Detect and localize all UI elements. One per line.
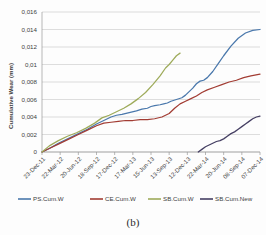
y-tick-label: 0,01 — [25, 61, 38, 68]
x-axis-tick-labels: 23-Dec-1122-Mar-1220-Jun-1218-Sep-1217-D… — [22, 155, 264, 180]
y-tick-label: 0,006 — [22, 96, 38, 103]
line-chart: 00,0020,0040,0060,0080,010,0120,0140,016… — [0, 0, 266, 190]
y-tick-label: 0,014 — [22, 26, 38, 33]
legend-label-ce-cum-w: CE.Cum.W — [105, 195, 136, 202]
legend-label-ps-cum-w: PS.Cum.W — [33, 195, 64, 202]
legend-label-sb-cum-w: SB.Cum.W — [163, 195, 194, 202]
y-tick-label: 0,002 — [22, 131, 38, 138]
y-tick-label: 0,012 — [22, 43, 38, 50]
y-tick-label: 0,008 — [22, 78, 38, 85]
figure-caption: (b) — [127, 216, 140, 229]
figure-container: 00,0020,0040,0060,0080,010,0120,0140,016… — [0, 0, 266, 235]
series-line-sb-cum-w — [42, 53, 180, 152]
chart-plot-area: 00,0020,0040,0060,0080,010,0120,0140,016… — [0, 0, 266, 190]
y-tick-label: 0 — [34, 148, 38, 155]
y-axis-tick-labels: 00,0020,0040,0060,0080,010,0120,0140,016 — [22, 8, 38, 155]
chart-legend: PS.Cum.WCE.Cum.WSB.Cum.WSB.Cum.New — [0, 190, 266, 212]
data-series-group — [42, 30, 260, 153]
y-tick-label: 0,004 — [22, 113, 38, 120]
y-tick-label: 0,016 — [22, 8, 38, 15]
y-axis-title: Cumulative Wear (mm) — [7, 63, 14, 129]
legend-label-sb-cum-new: SB.Cum.New — [215, 195, 253, 202]
series-line-sb-cum-new — [198, 116, 260, 152]
figure-caption-area: (b) — [0, 210, 266, 234]
